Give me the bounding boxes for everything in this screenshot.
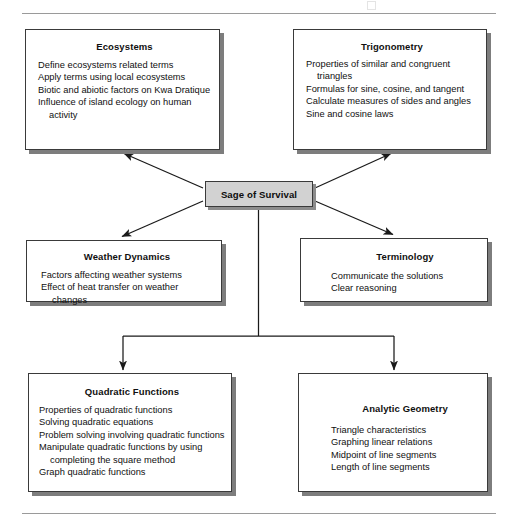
bottom-rule: [22, 513, 496, 514]
list-item: Triangle characteristics: [331, 424, 479, 436]
node-trigonometry[interactable]: Trigonometry Properties of similar and c…: [293, 29, 487, 150]
list-item: Sine and cosine laws: [306, 108, 478, 120]
list-item: Apply terms using local ecosystems: [38, 71, 211, 83]
node-ecosystems[interactable]: Ecosystems Define ecosystems related ter…: [25, 29, 220, 150]
page-corner-mark: [367, 1, 376, 10]
node-quadratic-title: Quadratic Functions: [39, 386, 225, 398]
list-item: Formulas for sine, cosine, and tangent: [306, 83, 478, 95]
list-item: Clear reasoning: [331, 282, 479, 294]
list-item: Solving quadratic equations: [39, 416, 225, 428]
node-center-label: Sage of Survival: [221, 189, 297, 200]
list-item: Factors affecting weather systems: [41, 269, 213, 281]
list-item: Manipulate quadratic functions by using …: [39, 441, 225, 466]
node-quadratic-list: Properties of quadratic functions Solvin…: [39, 404, 225, 478]
list-item: Calculate measures of sides and angles: [306, 95, 478, 107]
node-quadratic-functions[interactable]: Quadratic Functions Properties of quadra…: [28, 373, 232, 492]
node-terminology-title: Terminology: [331, 251, 479, 263]
node-trigonometry-title: Trigonometry: [306, 41, 478, 53]
node-weather-dynamics[interactable]: Weather Dynamics Factors affecting weath…: [26, 240, 222, 302]
diagram-page: Ecosystems Define ecosystems related ter…: [0, 0, 518, 528]
node-ecosystems-title: Ecosystems: [38, 41, 211, 53]
list-item: Properties of similar and congruent tria…: [306, 58, 478, 83]
list-item: Communicate the solutions: [331, 270, 479, 282]
list-item: Define ecosystems related terms: [38, 59, 211, 71]
node-analytic-title: Analytic Geometry: [331, 403, 479, 415]
node-analytic-list: Triangle characteristics Graphing linear…: [331, 424, 479, 474]
list-item: Influence of island ecology on human act…: [38, 96, 211, 121]
node-center-sage-of-survival[interactable]: Sage of Survival: [205, 181, 313, 207]
connector-center-to-ecosystems: [124, 154, 203, 189]
connector-center-to-terminology: [315, 201, 393, 235]
list-item: Midpoint of line segments: [331, 449, 479, 461]
node-weather-title: Weather Dynamics: [41, 251, 213, 263]
node-terminology[interactable]: Terminology Communicate the solutions Cl…: [300, 238, 488, 302]
list-item: Graph quadratic functions: [39, 466, 225, 478]
node-analytic-geometry[interactable]: Analytic Geometry Triangle characteristi…: [298, 373, 488, 492]
node-terminology-list: Communicate the solutions Clear reasonin…: [331, 270, 479, 295]
list-item: Length of line segments: [331, 461, 479, 473]
node-ecosystems-list: Define ecosystems related terms Apply te…: [38, 59, 211, 121]
connector-center-to-trigonometry: [315, 154, 391, 189]
node-weather-list: Factors affecting weather systems Effect…: [41, 269, 213, 306]
list-item: Graphing linear relations: [331, 436, 479, 448]
list-item: Properties of quadratic functions: [39, 404, 225, 416]
top-rule: [22, 13, 496, 14]
list-item: Problem solving involving quadratic func…: [39, 429, 225, 441]
list-item: Biotic and abiotic factors on Kwa Dratiq…: [38, 84, 211, 96]
node-trigonometry-list: Properties of similar and congruent tria…: [306, 58, 478, 120]
list-item: Effect of heat transfer on weather chang…: [41, 281, 213, 306]
connector-center-to-weather: [122, 201, 203, 237]
